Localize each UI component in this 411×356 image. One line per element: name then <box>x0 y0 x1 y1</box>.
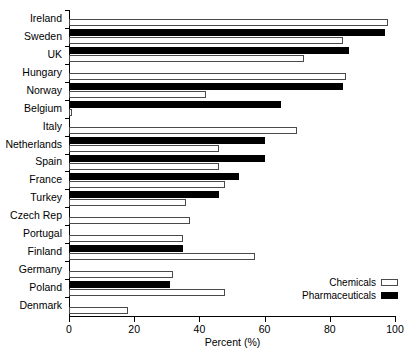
bar-chemicals <box>69 127 297 134</box>
bar-pharmaceuticals <box>69 191 219 198</box>
x-axis-tick-label: 100 <box>386 323 404 335</box>
x-axis-tick <box>199 317 200 322</box>
bar-pharmaceuticals <box>69 155 265 162</box>
chart-legend: Chemicals Pharmaceuticals <box>238 276 398 302</box>
chart-row: Turkey <box>69 189 395 207</box>
legend-item-pharmaceuticals: Pharmaceuticals <box>238 289 398 302</box>
category-label: Belgium <box>24 103 62 114</box>
y-axis-tick <box>65 297 69 298</box>
category-label: UK <box>47 49 62 60</box>
bar-chemicals <box>69 181 225 188</box>
x-axis-tick <box>265 317 266 322</box>
category-label: Portugal <box>23 228 62 239</box>
chart-row: Sweden <box>69 28 395 46</box>
bar-chart: IrelandSwedenUKHungaryNorwayBelgiumItaly… <box>0 0 411 356</box>
category-label: Denmark <box>19 300 62 311</box>
bar-chemicals <box>69 253 255 260</box>
bar-chemicals <box>69 109 72 116</box>
bar-pharmaceuticals <box>69 173 239 180</box>
x-axis-tick <box>330 317 331 322</box>
chart-row: Belgium <box>69 100 395 118</box>
legend-item-chemicals: Chemicals <box>238 276 398 289</box>
bar-pharmaceuticals <box>69 137 265 144</box>
x-axis-line <box>69 316 396 317</box>
bar-chemicals <box>69 73 346 80</box>
category-label: Ireland <box>30 13 62 24</box>
x-axis-tick-label: 60 <box>259 323 271 335</box>
bar-chemicals <box>69 289 225 296</box>
bar-chemicals <box>69 217 190 224</box>
x-axis-tick-label: 40 <box>194 323 206 335</box>
chart-row: Finland <box>69 243 395 261</box>
bar-chemicals <box>69 145 219 152</box>
category-label: Italy <box>43 121 62 132</box>
bar-pharmaceuticals <box>69 245 183 252</box>
category-label: Netherlands <box>5 139 62 150</box>
y-axis-tick <box>65 261 69 262</box>
y-axis-tick <box>65 64 69 65</box>
category-label: France <box>29 174 62 185</box>
x-axis-tick-label: 80 <box>324 323 336 335</box>
chart-row: Spain <box>69 154 395 172</box>
bar-pharmaceuticals <box>69 281 170 288</box>
chart-row: Ireland <box>69 10 395 28</box>
bar-chemicals <box>69 37 343 44</box>
bar-chemicals <box>69 91 206 98</box>
category-label: Hungary <box>22 67 62 78</box>
legend-label-chemicals: Chemicals <box>329 277 376 289</box>
bar-chemicals <box>69 19 388 26</box>
y-axis-tick <box>65 207 69 208</box>
plot-area: IrelandSwedenUKHungaryNorwayBelgiumItaly… <box>69 10 395 315</box>
chart-row: Czech Rep <box>69 207 395 225</box>
x-axis-title: Percent (%) <box>69 336 396 348</box>
bar-pharmaceuticals <box>69 83 343 90</box>
category-label: Poland <box>29 282 62 293</box>
chart-row: Norway <box>69 82 395 100</box>
x-axis-tick <box>395 317 396 322</box>
category-label: Czech Rep <box>10 210 62 221</box>
chart-row: Netherlands <box>69 136 395 154</box>
x-axis-tick-label: 0 <box>66 323 72 335</box>
category-label: Finland <box>28 246 62 257</box>
bar-chemicals <box>69 199 186 206</box>
chart-row: Hungary <box>69 64 395 82</box>
bar-pharmaceuticals <box>69 47 349 54</box>
y-axis-tick <box>65 10 69 11</box>
category-label: Sweden <box>24 31 62 42</box>
legend-swatch-chemicals <box>381 279 398 286</box>
x-axis-tick-label: 20 <box>128 323 140 335</box>
bar-pharmaceuticals <box>69 101 281 108</box>
legend-swatch-pharmaceuticals <box>381 292 398 299</box>
chart-row: France <box>69 171 395 189</box>
chart-row: UK <box>69 46 395 64</box>
bar-chemicals <box>69 235 183 242</box>
category-label: Norway <box>26 85 62 96</box>
x-axis-tick <box>69 317 70 322</box>
chart-row: Portugal <box>69 225 395 243</box>
legend-label-pharmaceuticals: Pharmaceuticals <box>302 290 376 302</box>
x-axis-tick <box>134 317 135 322</box>
category-label: Germany <box>19 264 62 275</box>
bar-pharmaceuticals <box>69 29 385 36</box>
bar-chemicals <box>69 271 173 278</box>
y-axis-tick <box>65 118 69 119</box>
bar-chemicals <box>69 307 128 314</box>
category-label: Spain <box>35 156 62 167</box>
y-axis-tick <box>65 225 69 226</box>
chart-row: Italy <box>69 118 395 136</box>
category-label: Turkey <box>30 192 62 203</box>
bar-chemicals <box>69 163 219 170</box>
bar-chemicals <box>69 55 304 62</box>
